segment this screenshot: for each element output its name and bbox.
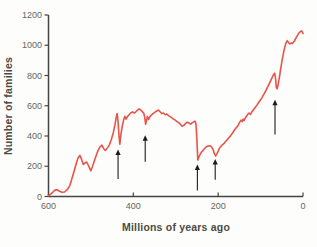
extinction-arrow-head <box>272 100 277 106</box>
x-tick-label: 400 <box>126 201 141 211</box>
y-tick-label: 600 <box>27 101 42 111</box>
chart-svg: 020040060080010001200 6004002000 Number … <box>0 0 317 247</box>
y-axis-ticks: 020040060080010001200 <box>22 10 49 202</box>
y-axis-title: Number of families <box>2 57 14 155</box>
x-axis-title: Millions of years ago <box>122 221 230 233</box>
extinction-arrow-head <box>143 135 148 141</box>
y-tick-label: 400 <box>27 131 42 141</box>
y-tick-label: 1200 <box>22 10 42 20</box>
curve-path <box>49 31 304 196</box>
y-tick-label: 200 <box>27 161 42 171</box>
x-tick-label: 0 <box>300 201 305 211</box>
x-axis-ticks: 6004002000 <box>41 193 306 212</box>
extinction-arrow-head <box>195 164 200 170</box>
y-tick-label: 1000 <box>22 40 42 50</box>
x-tick-label: 200 <box>211 201 226 211</box>
extinction-arrow-head <box>213 159 218 165</box>
family-diversity-chart: 020040060080010001200 6004002000 Number … <box>0 0 317 247</box>
y-tick-label: 800 <box>27 71 42 81</box>
diversity-curve <box>49 31 304 196</box>
extinction-arrow-head <box>115 150 120 156</box>
x-tick-label: 600 <box>41 201 56 211</box>
y-tick-label: 0 <box>37 192 42 202</box>
